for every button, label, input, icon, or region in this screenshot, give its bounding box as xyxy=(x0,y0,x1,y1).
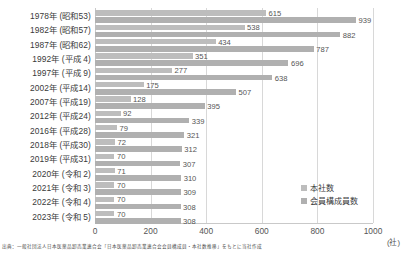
bar-row: 2007年 (平成19)128395 xyxy=(95,94,373,108)
bar-value-label: 92 xyxy=(123,109,131,118)
bar-honsha: 70 xyxy=(95,182,114,188)
bar-value-label: 538 xyxy=(247,23,260,32)
bar-row: 2019年 (平成31)70307 xyxy=(95,151,373,165)
bar-value-label: 70 xyxy=(117,180,125,189)
category-label: 2016年 (平成28) xyxy=(30,123,91,137)
legend-swatch-icon xyxy=(301,185,307,191)
bar-value-label: 70 xyxy=(117,152,125,161)
bar-honsha: 351 xyxy=(95,53,193,59)
bar-row: 2023年 (令和 5)70308 xyxy=(95,209,373,223)
legend-label: 本社数 xyxy=(310,182,334,193)
legend-item: 会員構成員数 xyxy=(301,195,358,206)
bar-row: 2002年 (平成14)175507 xyxy=(95,80,373,94)
bar-row: 2018年 (平成30)72312 xyxy=(95,137,373,151)
bar-honsha: 70 xyxy=(95,197,114,203)
axis-unit-label: (社) xyxy=(387,236,400,247)
x-tick-label: 0 xyxy=(93,226,98,236)
source-footnote: 出典：一般社団法人日本医薬品卸売業連合会「日本医薬品卸売業連合会会員構成員・本社… xyxy=(2,243,262,249)
bar-chart: 1978年 (昭和53)6159391982年 (昭和57)5388821987… xyxy=(0,0,406,253)
category-label: 2007年 (平成19) xyxy=(30,94,91,108)
bar-honsha: 434 xyxy=(95,39,216,45)
bar-value-label: 70 xyxy=(117,209,125,218)
bar-honsha: 277 xyxy=(95,68,172,74)
bar-honsha: 128 xyxy=(95,96,131,102)
category-label: 1982年 (昭和57) xyxy=(30,22,91,36)
bar-row: 1978年 (昭和53)615939 xyxy=(95,8,373,22)
bar-value-label: 71 xyxy=(117,166,125,175)
bar-honsha: 175 xyxy=(95,82,144,88)
bar-honsha: 70 xyxy=(95,154,114,160)
bar-honsha: 70 xyxy=(95,211,114,217)
bar-row: 1987年 (昭和62)434787 xyxy=(95,37,373,51)
category-label: 2002年 (平成14) xyxy=(30,80,91,94)
bar-value-label: 128 xyxy=(133,94,146,103)
category-label: 2022年 (令和 4) xyxy=(32,194,91,208)
legend-item: 本社数 xyxy=(301,182,358,193)
x-tick-label: 1000 xyxy=(364,226,383,236)
bar-honsha: 615 xyxy=(95,10,266,16)
legend-swatch-icon xyxy=(301,198,307,204)
bar-value-label: 70 xyxy=(117,195,125,204)
category-label: 2019年 (平成31) xyxy=(30,151,91,165)
bar-honsha: 71 xyxy=(95,168,115,174)
bar-row: 2020年 (令和 2)71310 xyxy=(95,166,373,180)
bar-value-label: 351 xyxy=(195,51,208,60)
category-label: 2012年 (平成24) xyxy=(30,108,91,122)
category-label: 1997年 (平成 9) xyxy=(32,65,91,79)
bar-row: 1997年 (平成 9)277638 xyxy=(95,65,373,79)
bar-value-label: 175 xyxy=(146,80,159,89)
bar-value-label: 72 xyxy=(118,137,126,146)
gridline xyxy=(373,8,374,223)
bar-value-label: 277 xyxy=(175,66,188,75)
bar-value-label: 308 xyxy=(183,216,196,225)
x-tick-label: 600 xyxy=(255,226,269,236)
bar-row: 2012年 (平成24)92339 xyxy=(95,108,373,122)
category-label: 1987年 (昭和62) xyxy=(30,37,91,51)
bar-row: 2016年 (平成28)79321 xyxy=(95,123,373,137)
bar-value-label: 79 xyxy=(119,123,127,132)
bar-honsha: 538 xyxy=(95,25,245,31)
bar-row: 1982年 (昭和57)538882 xyxy=(95,22,373,36)
bar-honsha: 72 xyxy=(95,139,115,145)
bar-row: 1992年 (平成 4)351696 xyxy=(95,51,373,65)
bar-value-label: 615 xyxy=(268,8,281,17)
category-label: 1992年 (平成 4) xyxy=(32,51,91,65)
x-tick-label: 400 xyxy=(199,226,213,236)
bar-honsha: 92 xyxy=(95,111,121,117)
bar-value-label: 434 xyxy=(218,37,231,46)
category-label: 2023年 (令和 5) xyxy=(32,209,91,223)
x-tick-label: 800 xyxy=(310,226,324,236)
x-tick-label: 200 xyxy=(144,226,158,236)
category-label: 2020年 (令和 2) xyxy=(32,166,91,180)
chart-legend: 本社数会員構成員数 xyxy=(301,182,358,206)
bar-kaiin: 308 xyxy=(95,218,181,224)
category-label: 2021年 (令和 3) xyxy=(32,180,91,194)
category-label: 1978年 (昭和53) xyxy=(30,8,91,22)
category-label: 2018年 (平成30) xyxy=(30,137,91,151)
legend-label: 会員構成員数 xyxy=(310,195,358,206)
bar-honsha: 79 xyxy=(95,125,117,131)
